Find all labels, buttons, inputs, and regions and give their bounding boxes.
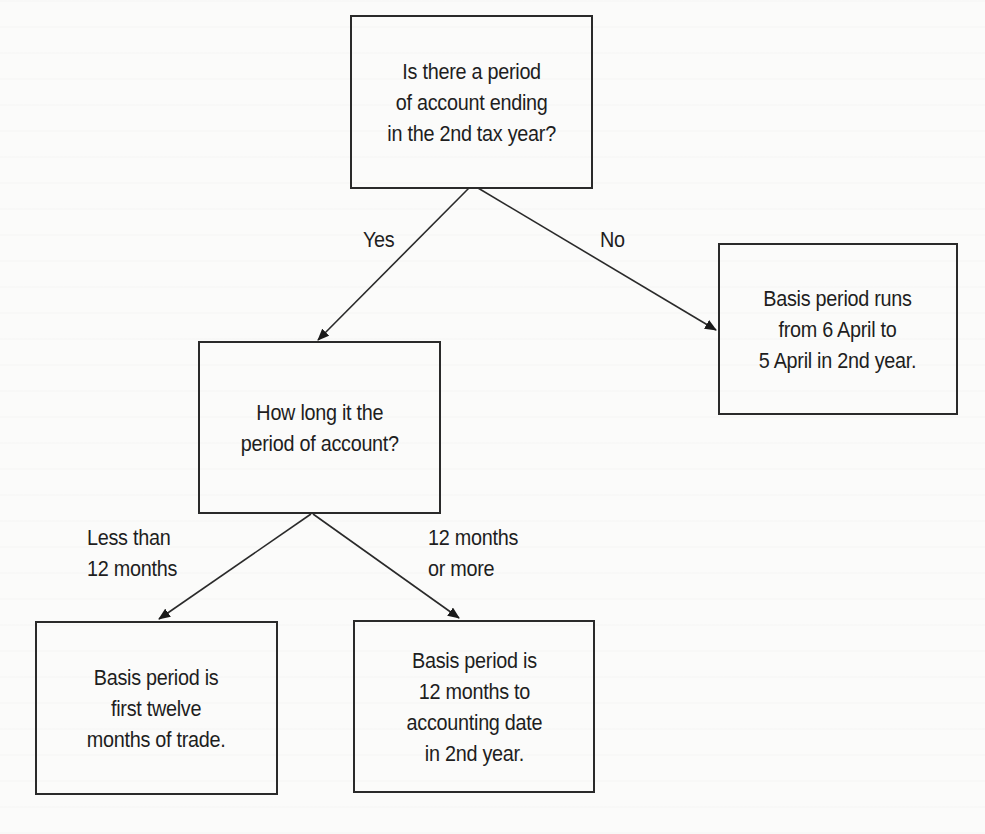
node-text-line: from 6 April to — [759, 314, 917, 345]
node-text-line: first twelve — [87, 693, 226, 724]
node-text-line: Basis period runs — [759, 283, 917, 314]
edge-label-line: Yes — [363, 224, 395, 255]
node-text-line: of account ending — [387, 87, 556, 118]
decision-node-period-ending-text: Is there a period of account ending in t… — [387, 56, 556, 149]
node-text-line: How long it the — [240, 397, 398, 428]
node-text-line: period of account? — [240, 428, 398, 459]
node-text-line: months of trade. — [87, 724, 226, 755]
decision-node-period-ending: Is there a period of account ending in t… — [350, 15, 593, 189]
edge-label-line: Less than — [87, 522, 177, 553]
node-text-line: Basis period is — [406, 645, 542, 676]
edge-label-line: No — [600, 224, 625, 255]
edge-label-no: No — [600, 224, 625, 255]
edge-label-line: 12 months — [87, 553, 177, 584]
node-text-line: 12 months to — [406, 676, 542, 707]
node-text-line: in the 2nd tax year? — [387, 118, 556, 149]
decision-node-period-length-text: How long it the period of account? — [240, 397, 398, 459]
outcome-node-first-twelve-months-text: Basis period is first twelve months of t… — [87, 662, 226, 755]
node-text-line: accounting date — [406, 707, 542, 738]
edge-label-yes: Yes — [363, 224, 395, 255]
edge-label-12-months-or-more: 12 months or more — [428, 522, 518, 584]
outcome-node-first-twelve-months: Basis period is first twelve months of t… — [35, 621, 278, 795]
outcome-node-twelve-months-to-date: Basis period is 12 months to accounting … — [353, 620, 595, 793]
outcome-node-april-to-april: Basis period runs from 6 April to 5 Apri… — [718, 243, 958, 415]
decision-node-period-length: How long it the period of account? — [198, 341, 441, 514]
node-text-line: in 2nd year. — [406, 738, 542, 769]
edge-label-line: 12 months — [428, 522, 518, 553]
outcome-node-april-to-april-text: Basis period runs from 6 April to 5 Apri… — [759, 283, 917, 376]
node-text-line: 5 April in 2nd year. — [759, 345, 917, 376]
edge-label-less-than-12-months: Less than 12 months — [87, 522, 177, 584]
node-text-line: Basis period is — [87, 662, 226, 693]
outcome-node-twelve-months-to-date-text: Basis period is 12 months to accounting … — [406, 645, 542, 769]
node-text-line: Is there a period — [387, 56, 556, 87]
edge-label-line: or more — [428, 553, 518, 584]
